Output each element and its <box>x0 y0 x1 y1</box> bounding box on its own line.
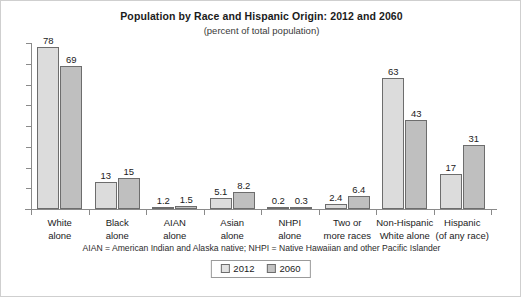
bar-group: 2.46.4 <box>319 43 377 209</box>
bar-2060 <box>463 145 485 209</box>
bar-2012 <box>37 47 59 209</box>
chart-subtitle: (percent of total population) <box>1 25 521 36</box>
category-label-7: Hispanic(of any race) <box>422 217 504 242</box>
bar-value-label: 69 <box>56 54 86 65</box>
bar-2060 <box>118 178 140 209</box>
x-axis-tick <box>204 210 205 215</box>
legend-label-2012: 2012 <box>233 263 254 274</box>
bar-value-label: 43 <box>401 108 431 119</box>
bar-value-label: 78 <box>33 35 63 46</box>
legend-item-2060: 2060 <box>267 263 301 274</box>
bar-2060 <box>233 192 255 209</box>
legend-label-2060: 2060 <box>280 263 301 274</box>
bar-value-label: 1.5 <box>171 194 201 205</box>
x-axis-tick <box>89 210 90 215</box>
bar-2060 <box>60 66 82 209</box>
bar-2012 <box>382 78 404 209</box>
bar-2012 <box>267 207 289 209</box>
chart-footnote: AIAN = American Indian and Alaska native… <box>1 243 521 253</box>
bar-2060 <box>175 206 197 209</box>
bar-group: 1.21.5 <box>146 43 204 209</box>
bar-2012 <box>210 198 232 209</box>
bar-group: 6343 <box>376 43 434 209</box>
category-label-line: (of any race) <box>422 230 504 243</box>
bar-2060 <box>405 120 427 209</box>
legend-item-2012: 2012 <box>220 263 254 274</box>
plot-area: 786913151.21.55.18.20.20.32.46.463431731 <box>31 43 491 209</box>
chart-legend: 2012 2060 <box>210 260 310 278</box>
x-axis-tick <box>31 210 32 215</box>
bar-value-label: 31 <box>459 133 489 144</box>
chart-figure: Population by Race and Hispanic Origin: … <box>0 0 521 297</box>
bar-2012 <box>325 204 347 209</box>
bar-value-label: 63 <box>378 66 408 77</box>
bar-group: 5.18.2 <box>204 43 262 209</box>
bar-group: 0.20.3 <box>261 43 319 209</box>
x-axis-tick <box>261 210 262 215</box>
bar-group: 7869 <box>31 43 89 209</box>
bar-2012 <box>95 182 117 209</box>
bar-group: 1731 <box>434 43 492 209</box>
bar-value-label: 6.4 <box>344 184 374 195</box>
bar-value-label: 15 <box>114 166 144 177</box>
bar-group: 1315 <box>89 43 147 209</box>
legend-swatch-2012-icon <box>220 264 229 273</box>
x-axis-tick <box>146 210 147 215</box>
bar-2012 <box>152 207 174 209</box>
x-axis-tick <box>319 210 320 215</box>
x-axis-tick <box>434 210 435 215</box>
category-label-line: Hispanic <box>422 217 504 230</box>
x-axis-tick <box>376 210 377 215</box>
bar-value-label: 17 <box>436 162 466 173</box>
chart-title: Population by Race and Hispanic Origin: … <box>1 10 521 22</box>
x-axis-tick <box>491 210 492 215</box>
bar-2060 <box>348 196 370 209</box>
legend-swatch-2060-icon <box>267 264 276 273</box>
bar-2060 <box>290 207 312 209</box>
bar-2012 <box>440 174 462 209</box>
bar-value-label: 8.2 <box>229 180 259 191</box>
bar-value-label: 0.3 <box>286 195 316 206</box>
